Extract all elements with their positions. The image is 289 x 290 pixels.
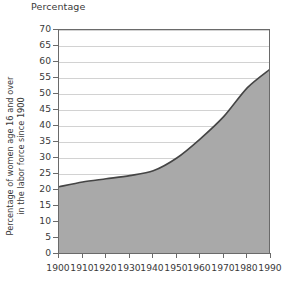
- y-axis-tick-label: 50: [28, 88, 51, 97]
- x-axis-tick-label: 1990: [255, 263, 285, 273]
- x-axis-tick: [58, 253, 59, 258]
- plot-area: [58, 29, 270, 253]
- y-axis-tick-label: 55: [28, 72, 51, 81]
- y-axis-tick-label: 60: [28, 56, 51, 65]
- area-fill-path: [59, 68, 270, 253]
- y-axis-tick: [53, 205, 58, 206]
- y-axis-label-container: Percentage of women age 16 and over in t…: [0, 58, 30, 254]
- x-axis-tick: [176, 253, 177, 258]
- y-axis-tick: [53, 109, 58, 110]
- y-axis-tick-label: 10: [28, 216, 51, 225]
- area-series-svg: [59, 30, 270, 253]
- chart-title: Percentage: [31, 1, 85, 12]
- y-axis-tick-label: 0: [28, 248, 51, 257]
- y-axis-tick: [53, 157, 58, 158]
- x-axis-tick: [199, 253, 200, 258]
- x-axis-tick: [152, 253, 153, 258]
- y-axis-tick-label: 25: [28, 168, 51, 177]
- y-axis-tick: [53, 141, 58, 142]
- y-axis-label-line-1: Percentage of women age 16 and over: [5, 77, 15, 236]
- chart-figure: Percentage Percentage of women age 16 an…: [0, 0, 289, 290]
- x-axis-line: [58, 253, 270, 254]
- y-axis-label: Percentage of women age 16 and over in t…: [5, 58, 26, 254]
- y-axis-tick: [53, 45, 58, 46]
- y-axis-tick: [53, 173, 58, 174]
- x-axis-tick: [246, 253, 247, 258]
- y-axis-tick: [53, 189, 58, 190]
- y-axis-tick-label: 45: [28, 104, 51, 113]
- x-axis-tick: [82, 253, 83, 258]
- y-axis-tick-label: 20: [28, 184, 51, 193]
- y-axis-tick-label: 70: [28, 24, 51, 33]
- y-axis-tick-label: 30: [28, 152, 51, 161]
- y-axis-tick: [53, 29, 58, 30]
- y-axis-tick: [53, 77, 58, 78]
- y-axis-tick-label: 15: [28, 200, 51, 209]
- x-axis-tick: [223, 253, 224, 258]
- x-axis-tick: [105, 253, 106, 258]
- y-axis-tick: [53, 93, 58, 94]
- y-axis-tick-label: 65: [28, 40, 51, 49]
- y-axis-tick: [53, 237, 58, 238]
- y-axis-tick: [53, 125, 58, 126]
- x-axis-tick: [129, 253, 130, 258]
- y-axis-tick-label: 5: [28, 232, 51, 241]
- y-axis-tick: [53, 61, 58, 62]
- y-axis-tick-label: 40: [28, 120, 51, 129]
- y-axis-tick-label: 35: [28, 136, 51, 145]
- x-axis-tick: [270, 253, 271, 258]
- y-axis-tick: [53, 221, 58, 222]
- y-axis-label-line-2: in the labor force since 1900: [15, 58, 26, 254]
